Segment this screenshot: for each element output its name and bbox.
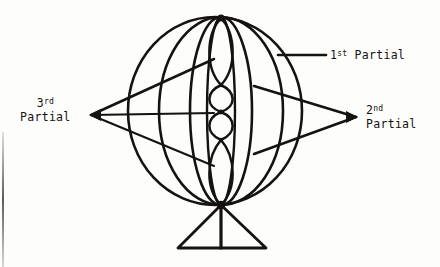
sphere-partials-diagram	[0, 0, 440, 267]
pinch-node-top	[219, 83, 223, 87]
pinch-node-bottom	[219, 138, 223, 142]
label-second-partial: 2nd Partial	[366, 103, 417, 131]
leader-second-lower	[254, 117, 356, 154]
leader-second-arrowhead	[346, 111, 358, 123]
label-third-partial-text: Partial	[20, 110, 71, 124]
leader-second-upper	[254, 86, 356, 117]
label-first-partial-suffix: st	[337, 49, 347, 58]
leader-third-lower	[91, 115, 214, 166]
leader-third-upper	[91, 59, 214, 115]
label-third-partial-ordinal: 3	[37, 96, 44, 110]
label-third-partial: 3rd Partial	[20, 96, 71, 124]
label-third-partial-suffix: rd	[44, 97, 54, 106]
central-lens-column	[209, 15, 232, 210]
base-stand-group	[178, 205, 266, 248]
leader-third-arrowhead	[89, 109, 101, 121]
leader-third-middle	[91, 113, 214, 115]
figure-canvas: 1st Partial 2nd Partial 3rd Partial	[0, 0, 440, 267]
lens-node-4	[209, 140, 232, 205]
label-first-partial-text: Partial	[355, 48, 406, 62]
sphere-outline-group	[128, 17, 302, 205]
label-first-partial: 1st Partial	[330, 48, 405, 62]
lens-node-3	[209, 112, 232, 140]
leader-group-second-partial	[254, 86, 358, 154]
label-second-partial-text: Partial	[366, 117, 417, 131]
leader-group-third-partial	[89, 59, 214, 166]
sphere-outer-circle	[128, 17, 302, 205]
lens-node-2	[209, 85, 232, 112]
lens-node-1	[209, 18, 232, 85]
pinch-node-center	[219, 110, 224, 115]
label-second-partial-suffix: nd	[373, 104, 383, 113]
pole-dot-top	[218, 15, 225, 22]
